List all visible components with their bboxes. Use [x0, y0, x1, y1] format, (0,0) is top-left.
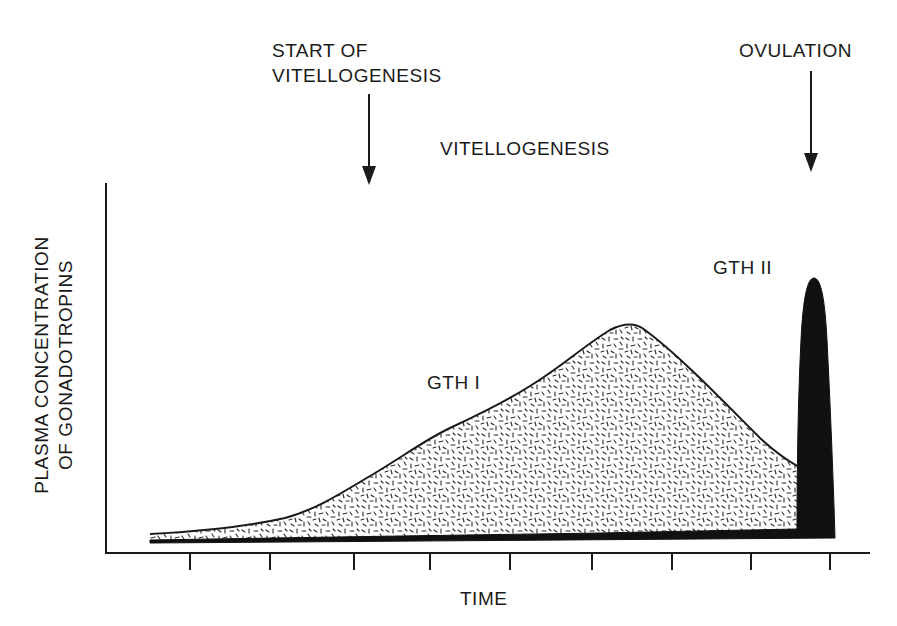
gth1-label: GTH I [427, 372, 480, 394]
chart-canvas [0, 0, 897, 626]
gth2-label: GTH II [713, 257, 772, 279]
ovulation-arrow [804, 71, 818, 172]
gth1-area [150, 325, 799, 540]
y-axis-label: PLASMA CONCENTRATION OF GONADOTROPINS [30, 175, 78, 555]
y-axis-label-line2: OF GONADOTROPINS [54, 175, 78, 555]
vitellogenesis-start-label: VITELLOGENESIS [272, 65, 442, 87]
x-ticks [190, 553, 830, 570]
start-vitellogenesis-arrow [362, 94, 376, 185]
start-of-label: START OF [272, 40, 368, 62]
y-axis-label-line1: PLASMA CONCENTRATION [30, 175, 54, 555]
x-axis-label: TIME [460, 588, 507, 610]
vitellogenesis-label: VITELLOGENESIS [440, 138, 610, 160]
ovulation-label: OVULATION [739, 40, 852, 62]
